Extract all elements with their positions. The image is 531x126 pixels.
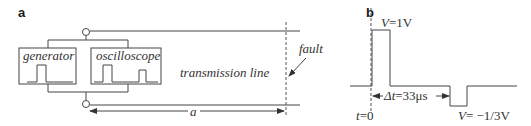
diagram-canvas: a generator oscilloscope transmission li…	[0, 0, 531, 126]
panel-a-label: a	[18, 5, 26, 20]
transmission-line-label: transmission line	[180, 65, 269, 80]
fault-label: fault	[299, 41, 323, 56]
generator-box: generator	[19, 48, 76, 84]
oscilloscope-box: oscilloscope	[91, 48, 161, 84]
generator-label: generator	[23, 48, 75, 63]
fault-arrow	[289, 58, 306, 76]
terminal-bottom	[83, 101, 90, 108]
waveform	[350, 30, 517, 106]
v-high-label: V=1V	[381, 15, 413, 30]
distance-label: a	[190, 104, 197, 119]
panel-b-label: b	[366, 5, 374, 20]
bus-top	[48, 36, 128, 48]
t0-label: t=0	[356, 108, 373, 123]
terminal-top	[83, 29, 90, 36]
bus-bottom	[48, 84, 128, 100]
v-low-label: V= −1/3V	[458, 108, 510, 123]
oscilloscope-label: oscilloscope	[96, 48, 160, 63]
dt-label: Δt=33μs	[383, 88, 428, 103]
